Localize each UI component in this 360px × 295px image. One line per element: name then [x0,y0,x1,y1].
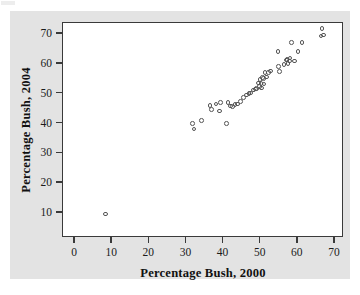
x-axis-tick-label: 10 [105,246,117,258]
y-axis-tick-label: 30 [28,146,52,158]
y-axis-tick [56,122,62,123]
x-axis-tick-label: 50 [254,246,266,258]
x-axis-tick-label: 20 [143,246,155,258]
y-axis-tick [56,92,62,93]
y-axis-tick-label: 10 [28,206,52,218]
y-axis-tick [56,181,62,182]
y-axis-tick-label: 40 [28,117,52,129]
x-axis-tick [73,237,74,243]
y-axis-tick [56,211,62,212]
y-axis-tick-label: 60 [28,57,52,69]
y-axis-tick-label: 20 [28,176,52,188]
x-axis-tick [296,237,297,243]
y-axis-tick-label: 70 [28,27,52,39]
x-axis-tick [185,237,186,243]
scatter-plot-figure: Percentage Bush, 2000 Percentage Bush, 2… [0,0,360,295]
x-axis-tick [222,237,223,243]
x-axis-tick [110,237,111,243]
y-axis-tick [56,32,62,33]
x-axis-tick-label: 0 [71,246,77,258]
x-axis-tick-label: 30 [180,246,192,258]
plot-area-frame [62,22,343,237]
x-axis-title: Percentage Bush, 2000 [140,266,265,281]
x-axis-tick [259,237,260,243]
x-axis-tick-label: 70 [328,246,340,258]
scan-artifact [1,1,15,5]
y-axis-tick [56,62,62,63]
x-axis-tick-label: 40 [217,246,229,258]
y-axis-tick [56,152,62,153]
x-axis-tick [148,237,149,243]
x-axis-tick-label: 60 [291,246,303,258]
x-axis-tick [333,237,334,243]
y-axis-tick-label: 50 [28,87,52,99]
